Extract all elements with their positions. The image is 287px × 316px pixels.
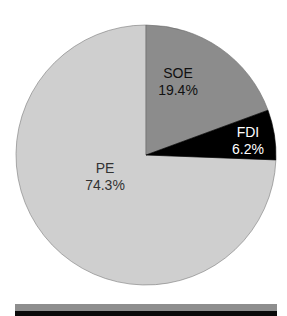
slice-name: PE (85, 160, 125, 177)
slice-label-fdi: FDI 6.2% (232, 124, 264, 158)
slice-label-pe: PE 74.3% (85, 160, 125, 194)
caption-divider (15, 304, 277, 311)
slice-percent: 19.4% (158, 82, 198, 99)
slice-name: SOE (158, 65, 198, 82)
slice-name: FDI (232, 124, 264, 141)
figure-caption (15, 311, 277, 316)
slice-percent: 74.3% (85, 177, 125, 194)
slice-percent: 6.2% (232, 141, 264, 158)
slice-label-soe: SOE 19.4% (158, 65, 198, 99)
